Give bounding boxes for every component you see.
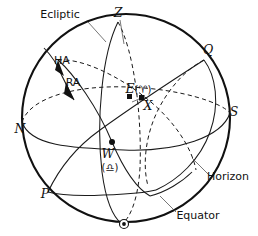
right-ascension-label: RA (66, 76, 81, 89)
star-label: X (143, 98, 154, 113)
west-label: W (102, 146, 116, 161)
ecliptic-leader-line (88, 22, 106, 42)
equator-leader-line (160, 196, 176, 212)
equator-label: Equator (176, 209, 220, 222)
east-label: E (124, 81, 134, 96)
aries-symbol-label: (♈) (135, 84, 152, 95)
ecliptic-lower-arc (150, 172, 192, 196)
zenith-tick-line (120, 20, 124, 44)
hour-angle-label: HA (54, 54, 70, 67)
sphere-outline-circle (22, 14, 230, 222)
libra-symbol-label: (♎) (102, 162, 119, 173)
ecliptic-label: Ecliptic (40, 8, 80, 21)
celestial-sphere-figure: Ecliptic Z Q S N P HA RA E (♈) X W (♎) H… (0, 0, 258, 236)
horizon-label: Horizon (207, 170, 249, 183)
equator-upper-label: Q (203, 42, 213, 57)
north-label: N (14, 121, 27, 136)
nadir-point-dot (122, 222, 126, 226)
horizon-near-half (22, 113, 230, 150)
south-label: S (230, 104, 239, 119)
celestial-sphere-diagram: Ecliptic Z Q S N P HA RA E (♈) X W (♎) H… (0, 0, 258, 236)
west-point-marker (109, 139, 115, 145)
horizon-circle (22, 87, 230, 150)
zenith-label: Z (113, 5, 123, 20)
equator-bottom-arc (48, 190, 156, 195)
pole-label: P (40, 186, 50, 201)
